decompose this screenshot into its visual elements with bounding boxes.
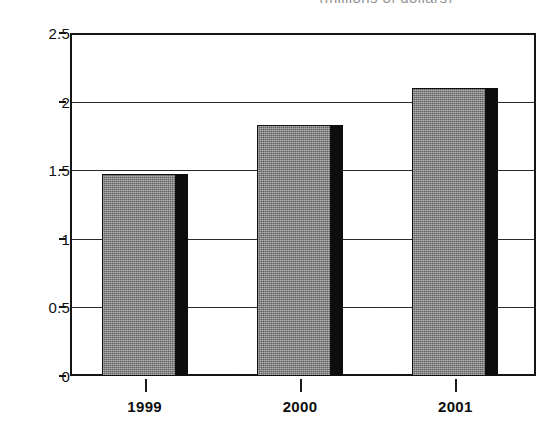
x-axis-tick-mark (300, 379, 302, 392)
bar-body (412, 88, 486, 376)
y-axis-tick-mark (59, 306, 66, 308)
bar-shadow (486, 88, 498, 376)
bar-shadow (176, 174, 188, 376)
y-axis: 2.521.510.50 (0, 0, 70, 440)
bar-2001 (412, 88, 498, 376)
x-axis-tick-label: 2001 (400, 398, 510, 415)
y-axis-tick-mark (59, 32, 66, 34)
y-axis-tick-mark (59, 101, 66, 103)
x-axis-tick-mark (455, 379, 457, 392)
bar-body (102, 174, 176, 376)
bars-layer (70, 33, 536, 376)
bar-shadow (331, 125, 343, 376)
bar-1999 (102, 174, 188, 376)
chart-screenshot: (millions of dollars) 2.521.510.50 19992… (0, 0, 556, 440)
x-axis-tick-label: 1999 (90, 398, 200, 415)
clipped-caption-text: (millions of dollars) (236, 0, 536, 3)
x-axis-tick-label: 2000 (245, 398, 355, 415)
x-axis-tick-mark (145, 379, 147, 392)
y-axis-tick-mark (59, 375, 66, 377)
y-axis-tick-mark (59, 238, 66, 240)
bar-2000 (257, 125, 343, 376)
bar-body (257, 125, 331, 376)
y-axis-tick-mark (59, 169, 66, 171)
